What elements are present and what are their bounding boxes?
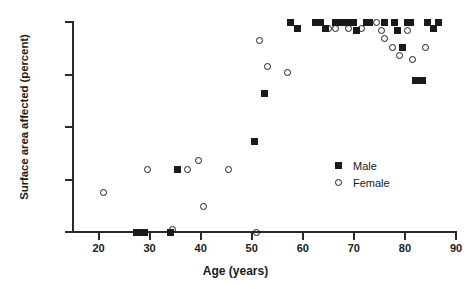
data-point-male [419, 77, 426, 84]
x-tick-label-50: 50 [232, 242, 272, 254]
x-tick-30 [149, 233, 151, 240]
y-axis-title: Surface area affected (percent) [18, 7, 30, 227]
female-marker-icon [330, 179, 346, 186]
data-point-female [332, 25, 339, 32]
x-axis-title: Age (years) [0, 264, 471, 278]
data-point-male [435, 19, 442, 26]
data-point-female [200, 203, 207, 210]
y-tick-75 [65, 74, 73, 76]
data-point-female [358, 25, 365, 32]
x-tick-40 [200, 233, 202, 240]
x-tick-80 [404, 233, 406, 240]
data-point-male [412, 77, 419, 84]
data-point-male [399, 44, 406, 51]
legend-label-female: Female [353, 177, 390, 189]
data-point-female [378, 27, 385, 34]
legend-label-male: Male [353, 160, 377, 172]
x-tick-label-30: 30 [130, 242, 170, 254]
data-point-female [184, 166, 191, 173]
male-marker-icon [330, 162, 346, 169]
data-point-male [430, 25, 437, 32]
data-point-female [253, 229, 260, 236]
data-point-female [264, 63, 271, 70]
x-tick-label-60: 60 [283, 242, 323, 254]
legend-item-male: Male [330, 157, 390, 174]
data-point-male [391, 19, 398, 26]
y-tick-0 [65, 231, 73, 233]
data-point-female [195, 157, 202, 164]
x-tick-label-40: 40 [181, 242, 221, 254]
data-point-female [317, 19, 324, 26]
data-point-female [325, 25, 332, 32]
data-point-female [284, 69, 291, 76]
data-point-female [345, 25, 352, 32]
data-point-male [251, 138, 258, 145]
y-tick-100 [65, 21, 73, 23]
x-tick-label-20: 20 [79, 242, 119, 254]
data-point-male [394, 27, 401, 34]
data-point-female [256, 37, 263, 44]
data-point-female [404, 27, 411, 34]
data-point-male [141, 229, 148, 236]
x-tick-label-90: 90 [436, 242, 471, 254]
data-point-male [261, 90, 268, 97]
data-point-male [381, 19, 388, 26]
data-point-female [396, 52, 403, 59]
data-point-female [409, 56, 416, 63]
x-tick-90 [455, 233, 457, 240]
y-tick-25 [65, 179, 73, 181]
data-point-male [174, 166, 181, 173]
data-point-male [366, 19, 373, 26]
legend-item-female: Female [330, 174, 390, 191]
data-point-female [225, 166, 232, 173]
scatter-chart: Surface area affected (percent) Age (yea… [0, 0, 471, 289]
x-tick-label-80: 80 [385, 242, 425, 254]
y-tick-50 [65, 126, 73, 128]
data-point-female [100, 189, 107, 196]
data-point-female [389, 44, 396, 51]
data-point-male [294, 25, 301, 32]
x-axis-line [72, 231, 457, 233]
data-point-female [381, 35, 388, 42]
x-tick-60 [302, 233, 304, 240]
data-point-female [373, 19, 380, 26]
data-point-male [407, 19, 414, 26]
data-point-male [287, 19, 294, 26]
x-tick-70 [353, 233, 355, 240]
data-point-female [144, 166, 151, 173]
data-point-female [422, 44, 429, 51]
chart-legend: Male Female [330, 157, 390, 191]
x-tick-20 [98, 233, 100, 240]
x-tick-label-70: 70 [334, 242, 374, 254]
data-point-male [350, 19, 357, 26]
